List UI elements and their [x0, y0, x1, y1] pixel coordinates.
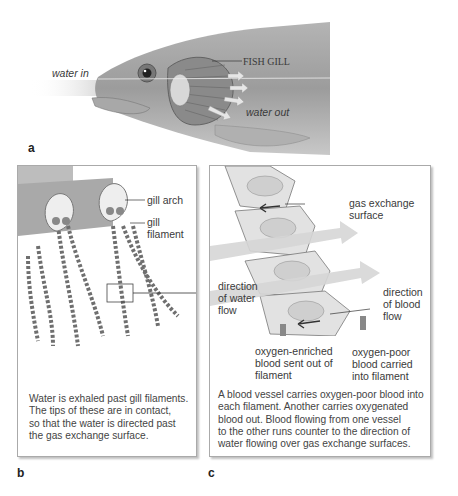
- label-blood-flow-2: of blood: [383, 298, 420, 310]
- label-gas-exchange-1: gas exchange: [349, 197, 414, 209]
- caption-b-line: the gas exchange surface.: [29, 430, 188, 442]
- label-gill-filament-2: filament: [147, 228, 184, 240]
- panel-a: water in FISH GILL water out a: [0, 0, 458, 160]
- label-enriched-3: filament: [255, 369, 292, 381]
- caption-c-line: A blood vessel carries oxygen-poor blood…: [218, 389, 424, 401]
- label-gill-arch: gill arch: [147, 194, 183, 206]
- caption-b: Water is exhaled past gill filaments. Th…: [29, 393, 188, 442]
- panel-b: gill arch gill filament Water is exhaled…: [17, 165, 197, 457]
- panel-letter-b: b: [17, 466, 24, 480]
- caption-c: A blood vessel carries oxygen-poor blood…: [218, 389, 424, 450]
- label-blood-flow-1: direction: [383, 286, 423, 298]
- label-gill-filament-1: gill: [147, 216, 160, 228]
- label-water-out: water out: [246, 106, 289, 118]
- label-water-flow-1: direction: [218, 280, 258, 292]
- label-enriched-2: blood sent out of: [255, 357, 333, 369]
- panel-letter-c: c: [208, 466, 215, 480]
- label-poor-2: blood carried: [352, 358, 413, 370]
- label-water-in: water in: [52, 67, 89, 79]
- label-fish-gill: FISH GILL: [243, 56, 290, 68]
- label-blood-flow-3: flow: [383, 310, 402, 322]
- caption-b-line: Water is exhaled past gill filaments.: [29, 393, 188, 405]
- panel-c: gas exchange surface direction of water …: [209, 165, 431, 457]
- label-poor-1: oxygen-poor: [352, 346, 410, 358]
- label-water-flow-3: flow: [218, 304, 237, 316]
- caption-b-line: so that the water is directed past: [29, 418, 188, 430]
- panel-letter-a: a: [28, 141, 35, 155]
- fish-head-illustration: [0, 0, 458, 160]
- caption-c-line: each filament. Another carries oxygenate…: [218, 401, 424, 413]
- label-gas-exchange-2: surface: [349, 209, 383, 221]
- caption-b-line: The tips of these are in contact,: [29, 405, 188, 417]
- label-water-flow-2: of water: [218, 292, 255, 304]
- label-enriched-1: oxygen-enriched: [255, 345, 333, 357]
- caption-c-line: blood out. Blood flowing from one vessel: [218, 414, 424, 426]
- caption-c-line: water flowing over gas exchange surfaces…: [218, 438, 424, 450]
- label-poor-3: into filament: [352, 370, 409, 382]
- caption-c-line: to the other runs counter to the directi…: [218, 426, 424, 438]
